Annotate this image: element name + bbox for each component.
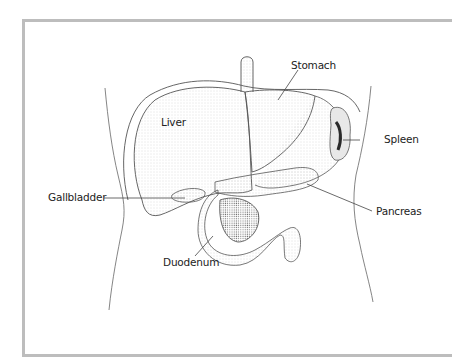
label-pancreas: Pancreas bbox=[376, 206, 422, 217]
body-outline-left bbox=[105, 88, 124, 310]
body-outline-right bbox=[354, 86, 373, 302]
label-gallbladder: Gallbladder bbox=[48, 192, 106, 203]
label-liver: Liver bbox=[161, 117, 186, 128]
esophagus bbox=[241, 57, 253, 92]
leader-pancreas bbox=[307, 184, 372, 211]
pancreas-head bbox=[220, 198, 259, 242]
label-spleen: Spleen bbox=[384, 134, 419, 145]
label-duodenum: Duodenum bbox=[163, 257, 219, 268]
label-stomach: Stomach bbox=[291, 60, 336, 71]
